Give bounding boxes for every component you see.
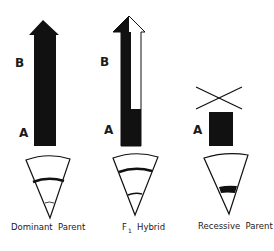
caption-recessive-parent: Recessive Parent	[198, 221, 273, 231]
caption-f1-hybrid: Hybrid	[137, 222, 165, 232]
label-b-dominant: B	[15, 56, 24, 70]
label-a-recessive: A	[193, 123, 203, 137]
dominant-wedge	[26, 156, 70, 218]
recessive-parent-panel: A Recessive Parent	[193, 87, 273, 231]
genetics-diagram: B A Dominant Parent B A F 1 Hybrid	[0, 0, 274, 251]
label-a-f1: A	[104, 123, 114, 137]
caption-f1-subscript: 1	[128, 227, 132, 234]
f1-wedge	[113, 154, 158, 215]
label-b-f1: B	[100, 55, 109, 69]
dominant-arrow	[29, 20, 59, 146]
label-a-dominant: A	[19, 126, 29, 140]
f1-hybrid-panel: B A F 1 Hybrid	[100, 16, 165, 234]
f1-arrow-black-base	[121, 109, 141, 146]
caption-dominant-parent: Dominant Parent	[11, 222, 86, 232]
caption-f1-main: F	[122, 222, 127, 232]
x-cross-icon	[196, 87, 242, 109]
recessive-wedge	[204, 154, 248, 214]
recessive-black-block	[209, 112, 233, 146]
dominant-parent-panel: B A Dominant Parent	[11, 20, 86, 232]
